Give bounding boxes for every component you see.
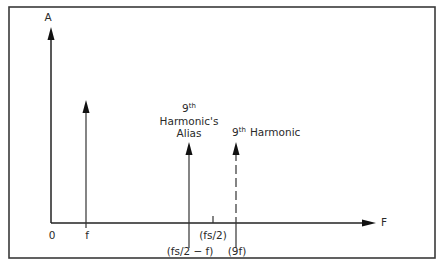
y-axis-label: A: [44, 11, 52, 23]
fundamental-arrowhead-icon: [83, 100, 90, 113]
fs-half-tick: (fs/2): [199, 216, 227, 241]
alias-annotation-line1: 9th: [182, 102, 196, 114]
ninth-harmonic-arrowhead-icon: [233, 142, 240, 155]
ninth-harmonic-annotation: 9thHarmonic: [232, 126, 301, 138]
alias-annotation-line3: Alias: [177, 127, 202, 139]
spectrum-diagram: A F 0 f 9th Harmonic's Alias (fs/2) 9thH…: [0, 0, 443, 278]
x-axis: F: [51, 216, 387, 228]
alias-annotation-line2: Harmonic's: [160, 115, 219, 127]
y-axis: A: [44, 11, 54, 223]
origin-label: 0: [49, 229, 56, 241]
y-axis-arrowhead-icon: [48, 27, 55, 40]
fs-half-label: (fs/2): [199, 229, 227, 241]
diagram-frame: [9, 7, 435, 258]
ninth-harmonic-line: 9thHarmonic: [232, 126, 301, 248]
x-axis-label: F: [381, 216, 387, 228]
x-axis-arrowhead-icon: [362, 220, 376, 227]
f-label: f: [85, 229, 89, 241]
alias-freq-label: (fs/2 − f): [167, 245, 214, 257]
alias-arrowhead-icon: [186, 142, 193, 155]
ninth-freq-label: (9f): [228, 245, 247, 257]
alias-line: 9th Harmonic's Alias: [160, 102, 219, 248]
fundamental-line: f: [83, 100, 90, 241]
